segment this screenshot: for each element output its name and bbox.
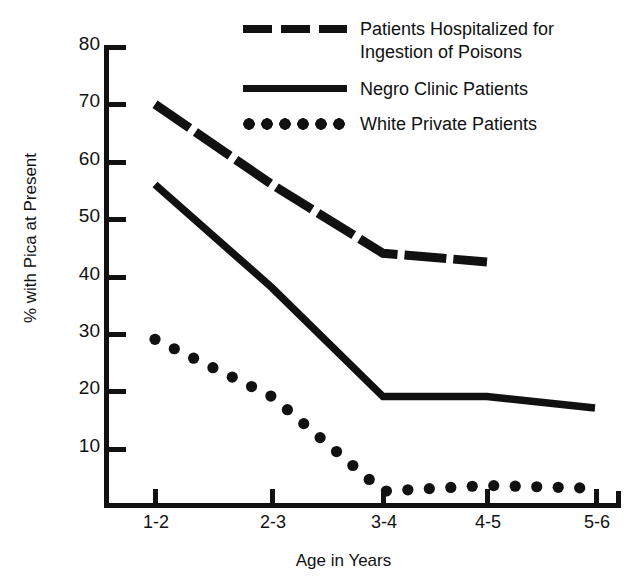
x-axis-line [104,503,621,508]
y-tick-label-10: 10 [48,435,100,457]
chart-figure: % with Pica at Present 80 70 60 50 40 30… [0,0,641,587]
dashed-line-icon [240,18,348,40]
x-tick-label-2-3: 2-3 [238,512,308,533]
y-axis-title: % with Pica at Present [21,123,41,353]
x-tick-label-4-5: 4-5 [453,512,523,533]
y-tick-label-70: 70 [48,90,100,112]
y-tick-50 [109,217,126,222]
dotted-line-icon [240,113,348,135]
legend-label-negro-clinic: Negro Clinic Patients [360,78,528,101]
data-point [169,343,180,354]
x-tick-4-5 [485,489,490,504]
legend: Patients Hospitalized for Ingestion of P… [240,18,640,140]
data-point [282,404,293,415]
axis-corner-left [104,491,109,505]
legend-label-hospitalized: Patients Hospitalized for Ingestion of P… [360,18,554,64]
x-tick-2-3 [270,489,275,504]
series-line-1 [155,185,595,409]
y-tick-label-60: 60 [48,148,100,170]
axis-corner-right [616,491,621,508]
data-point [364,474,375,485]
data-point [188,353,199,364]
data-point [298,418,309,429]
y-tick-30 [109,332,126,337]
data-point [574,482,585,493]
data-point [402,484,413,495]
y-tick-10 [109,447,126,452]
data-point [510,481,521,492]
data-point [347,460,358,471]
data-point [331,446,342,457]
legend-item-white-private[interactable]: White Private Patients [240,113,640,136]
legend-item-hospitalized[interactable]: Patients Hospitalized for Ingestion of P… [240,18,640,64]
y-tick-label-80: 80 [48,33,100,55]
data-point [149,334,160,345]
y-tick-label-50: 50 [48,205,100,227]
x-tick-label-5-6: 5-6 [562,512,632,533]
x-tick-label-1-2: 1-2 [121,512,191,533]
x-axis-title: Age in Years [0,551,641,571]
data-point [265,390,276,401]
y-tick-70 [109,102,126,107]
data-point [246,381,257,392]
data-point [445,482,456,493]
x-tick-3-4 [381,489,386,504]
legend-label-white-private: White Private Patients [360,113,537,136]
data-point [227,372,238,383]
solid-line-icon [240,78,348,100]
x-axis-title-text: Age in Years [296,551,391,571]
y-tick-label-20: 20 [48,377,100,399]
y-tick-label-40: 40 [48,263,100,285]
x-tick-5-6 [594,489,599,504]
y-tick-20 [109,389,126,394]
y-tick-label-30: 30 [48,320,100,342]
y-tick-40 [109,275,126,280]
data-point [553,482,564,493]
x-tick-1-2 [153,489,158,504]
data-point [315,432,326,443]
data-point [424,483,435,494]
data-point [531,481,542,492]
x-tick-label-3-4: 3-4 [349,512,419,533]
y-tick-60 [109,160,126,165]
data-point [467,481,478,492]
data-point [207,362,218,373]
y-tick-80 [109,45,126,50]
legend-item-negro-clinic[interactable]: Negro Clinic Patients [240,78,640,101]
